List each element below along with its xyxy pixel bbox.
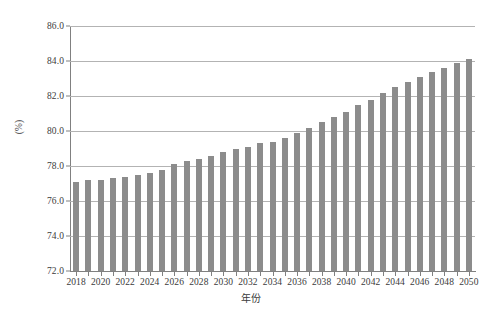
bar [73,182,79,271]
bar [208,156,214,272]
x-axis-tick-label: 2042 [361,277,380,287]
x-axis-tick-mark [260,272,261,276]
x-axis-tick-mark [273,272,274,276]
x-axis-title: 年份 [0,290,502,305]
bar [98,180,104,271]
x-axis-tick-mark [113,272,114,276]
bar [417,77,423,271]
bar [392,87,398,271]
bar [85,180,91,271]
bar [405,82,411,271]
x-axis-tick-mark [444,272,445,276]
x-axis-tick-mark [76,272,77,276]
x-axis-tick-label: 2030 [214,277,233,287]
bar [331,117,337,271]
x-axis-tick-mark [371,272,372,276]
bar [110,178,116,271]
x-axis-tick-label: 2018 [66,277,85,287]
x-axis-tick-mark [150,272,151,276]
x-axis-tick-mark [346,272,347,276]
bar [343,112,349,271]
x-axis-tick-mark [457,272,458,276]
bar [270,142,276,272]
x-axis-tick-label: 2040 [336,277,355,287]
bar [368,100,374,272]
bar [233,149,239,272]
bar [122,177,128,272]
x-axis-tick-label: 2044 [386,277,405,287]
x-axis-tick-label: 2048 [435,277,454,287]
x-axis-tick-mark [88,272,89,276]
bar [454,63,460,271]
x-axis-tick-mark [187,272,188,276]
x-axis-tick-label: 2024 [140,277,159,287]
bar [466,59,472,271]
y-axis-tick-marks [0,26,72,271]
x-axis-tick-label: 2032 [238,277,257,287]
bar [441,68,447,271]
bar [220,152,226,271]
bar [294,133,300,271]
x-axis-tick-mark [432,272,433,276]
x-axis-tick-mark [309,272,310,276]
bar [147,173,153,271]
x-axis-tick-mark [125,272,126,276]
x-axis-tick-label: 2028 [189,277,208,287]
x-axis-tick-mark [285,272,286,276]
bar [319,122,325,271]
x-axis-tick-mark [199,272,200,276]
x-axis-tick-label: 2034 [263,277,282,287]
x-axis-tick-label: 2038 [312,277,331,287]
bar [184,161,190,271]
plot-area [70,26,475,271]
x-axis-tick-mark [174,272,175,276]
bar [429,72,435,272]
bar [171,164,177,271]
x-axis-tick-mark [162,272,163,276]
x-axis-tick-label: 2026 [165,277,184,287]
x-axis-tick-mark [420,272,421,276]
x-axis-tick-mark [101,272,102,276]
bar [135,175,141,271]
x-axis-tick-label: 2020 [91,277,110,287]
x-axis-tick-mark [236,272,237,276]
x-axis-tick-mark [297,272,298,276]
x-axis-tick-mark [469,272,470,276]
x-axis-tick-mark [248,272,249,276]
x-axis-tick-label: 2046 [410,277,429,287]
bars-series [70,26,475,271]
x-axis-tick-mark [358,272,359,276]
bar [306,128,312,272]
x-axis-tick-mark [395,272,396,276]
x-axis-tick-mark [211,272,212,276]
bar [159,170,165,272]
bar [257,143,263,271]
x-axis-tick-label: 2050 [459,277,478,287]
bar [355,105,361,271]
x-axis-tick-label: 2022 [116,277,135,287]
x-axis-tick-mark [334,272,335,276]
x-axis-tick-mark [223,272,224,276]
y-axis-title: (%) [14,120,24,134]
x-axis-tick-mark [322,272,323,276]
x-axis-tick-mark [383,272,384,276]
x-axis-tick-mark [138,272,139,276]
x-axis-tick-labels: 2018202020222024202620282030203220342036… [70,277,475,291]
bar-chart: 86.084.082.080.078.076.074.072.0 2018202… [0,0,502,314]
bar [380,93,386,272]
x-axis-tick-label: 2036 [287,277,306,287]
bar [282,138,288,271]
bar [245,147,251,271]
x-axis-tick-mark [408,272,409,276]
bar [196,159,202,271]
